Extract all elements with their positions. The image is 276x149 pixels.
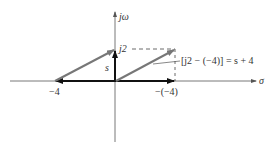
sigma-axis-label: σ	[259, 75, 265, 86]
j2-label: j2	[117, 43, 127, 54]
neg-neg4-label: −(−4)	[155, 86, 178, 98]
s-plane-diagram: jω σ j2 s −4 −(−4) [j2 − (−4)] = s + 4	[0, 0, 276, 149]
s-label: s	[105, 62, 109, 73]
jw-axis-label: jω	[117, 11, 129, 22]
equation-leader-line	[153, 61, 180, 64]
neg4-label: −4	[49, 86, 60, 97]
vector-s-plus-4-from-origin	[116, 50, 174, 81]
equation-label: [j2 − (−4)] = s + 4	[181, 55, 254, 67]
